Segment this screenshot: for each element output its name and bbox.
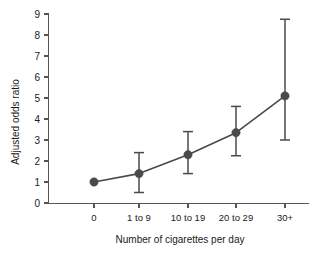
- data-point-1: [135, 169, 143, 177]
- x-tick-label-0: 0: [91, 212, 96, 223]
- y-tick-label-7: 7: [34, 51, 40, 62]
- y-tick-label-3: 3: [34, 135, 40, 146]
- y-tick-label-8: 8: [34, 30, 40, 41]
- x-tick-label-3: 20 to 29: [219, 212, 253, 223]
- data-point-0: [90, 178, 98, 186]
- data-point-4: [281, 92, 289, 100]
- y-tick-label-2: 2: [34, 156, 40, 167]
- y-tick-label-4: 4: [34, 114, 40, 125]
- chart-figure: Adjusted odds ratio 9 8 7 6 5 4 3 2 1: [0, 0, 320, 253]
- y-tick-label-5: 5: [34, 93, 40, 104]
- odds-ratio-line-chart: Adjusted odds ratio 9 8 7 6 5 4 3 2 1: [0, 0, 320, 253]
- x-tick-label-2: 10 to 19: [171, 212, 205, 223]
- y-tick-label-9: 9: [34, 9, 40, 20]
- x-axis-title: Number of cigarettes per day: [116, 234, 245, 245]
- y-axis-title: Adjusted odds ratio: [10, 79, 21, 165]
- y-tick-label-1: 1: [34, 177, 40, 188]
- y-tick-label-0: 0: [34, 198, 40, 209]
- x-tick-label-4: 30+: [277, 212, 294, 223]
- data-point-2: [184, 151, 192, 159]
- data-point-3: [232, 128, 240, 136]
- x-tick-label-1: 1 to 9: [127, 212, 151, 223]
- y-tick-label-6: 6: [34, 72, 40, 83]
